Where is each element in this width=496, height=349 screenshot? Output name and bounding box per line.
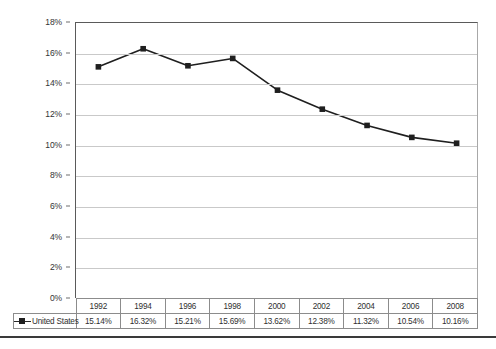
gridline-6 — [76, 207, 477, 208]
y-tick-mark-18 — [66, 22, 70, 23]
table-value-2008: 10.16% — [433, 314, 478, 329]
y-tick-label-6: 6% — [50, 201, 62, 211]
table-row: United States15.14%16.32%15.21%15.69%13.… — [14, 314, 478, 329]
y-tick-label-10: 10% — [45, 140, 62, 150]
y-tick-label-14: 14% — [45, 78, 62, 88]
table-header-1992: 1992 — [76, 299, 121, 314]
data-table-body: 199219941996199820002002200420062008Unit… — [14, 299, 478, 329]
legend-cell: United States — [14, 314, 77, 329]
gridline-2 — [76, 268, 477, 269]
data-point-2000 — [275, 87, 281, 93]
y-tick-label-12: 12% — [45, 109, 62, 119]
y-tick-mark-12 — [66, 114, 70, 115]
table-header-2006: 2006 — [388, 299, 433, 314]
y-tick-mark-4 — [66, 236, 70, 237]
table-header-1996: 1996 — [165, 299, 210, 314]
y-tick-mark-2 — [66, 267, 70, 268]
y-tick-mark-8 — [66, 175, 70, 176]
gridline-10 — [76, 146, 477, 147]
gridline-16 — [76, 54, 477, 55]
table-value-2004: 11.32% — [344, 314, 389, 329]
data-table: 199219941996199820002002200420062008Unit… — [13, 298, 478, 329]
data-point-1994 — [140, 46, 146, 52]
line-square-marker-icon — [14, 317, 31, 326]
table-value-1992: 15.14% — [76, 314, 121, 329]
table-header-1998: 1998 — [210, 299, 255, 314]
y-tick-label-18: 18% — [45, 17, 62, 27]
legend-label: United States — [32, 317, 79, 326]
y-tick-mark-6 — [66, 206, 70, 207]
table-header-row: 199219941996199820002002200420062008 — [14, 299, 478, 314]
series-line — [98, 49, 456, 143]
table-value-1994: 16.32% — [121, 314, 166, 329]
gridline-12 — [76, 115, 477, 116]
table-value-1998: 15.69% — [210, 314, 255, 329]
table-value-2002: 12.38% — [299, 314, 344, 329]
bottom-divider — [0, 336, 496, 338]
y-tick-label-8: 8% — [50, 170, 62, 180]
table-header-1994: 1994 — [121, 299, 166, 314]
data-point-2004 — [364, 123, 370, 129]
y-tick-label-4: 4% — [50, 232, 62, 242]
chart-container: 18%16%14%12%10%8%6%4%2%0% 19921994199619… — [0, 0, 496, 349]
y-tick-label-16: 16% — [45, 48, 62, 58]
y-tick-mark-16 — [66, 52, 70, 53]
table-corner-cell — [14, 299, 77, 314]
gridline-8 — [76, 176, 477, 177]
data-point-2006 — [409, 135, 415, 141]
y-tick-mark-10 — [66, 144, 70, 145]
table-value-1996: 15.21% — [165, 314, 210, 329]
y-tick-mark-14 — [66, 83, 70, 84]
y-tick-label-2: 2% — [50, 262, 62, 272]
data-point-2002 — [319, 106, 325, 112]
table-header-2004: 2004 — [344, 299, 389, 314]
plot-area — [75, 22, 478, 298]
gridline-4 — [76, 238, 477, 239]
table-header-2002: 2002 — [299, 299, 344, 314]
data-point-1996 — [185, 63, 191, 69]
data-point-1992 — [96, 64, 102, 70]
table-value-2000: 13.62% — [254, 314, 299, 329]
data-point-1998 — [230, 56, 236, 62]
table-value-2006: 10.54% — [388, 314, 433, 329]
table-header-2008: 2008 — [433, 299, 478, 314]
y-axis: 18%16%14%12%10%8%6%4%2%0% — [0, 22, 70, 298]
gridline-14 — [76, 84, 477, 85]
series-united-states — [76, 23, 479, 299]
table-header-2000: 2000 — [254, 299, 299, 314]
